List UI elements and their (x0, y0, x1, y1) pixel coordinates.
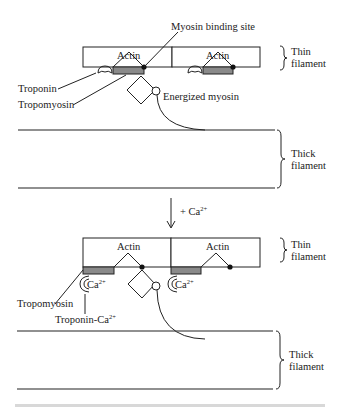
myosin-hinge-bottom (152, 282, 160, 290)
tropomyosin-right-bottom (171, 267, 201, 274)
thin-filament-label-1: Thin (291, 46, 312, 57)
myosin-head-bottom (128, 270, 155, 298)
myosin-neck-bottom (157, 290, 205, 339)
binding-site-dot-right (230, 64, 235, 69)
bottom-panel: Actin Actin Ca2+ Ca2+ Tropomyosin Tropon… (17, 238, 326, 389)
calcium-transition: + Ca2+ (167, 198, 207, 228)
actin-label-left-bottom: Actin (117, 241, 141, 252)
thin-filament-label-2: filament (291, 58, 326, 69)
actin-label-right-bottom: Actin (206, 241, 230, 252)
thick-filament-brace-top (277, 130, 285, 188)
binding-site-dot-right-bottom (227, 264, 232, 269)
energized-myosin-label: Energized myosin (163, 91, 240, 102)
myosin-head-top (127, 76, 155, 104)
thick-filament-label-2: filament (291, 160, 326, 171)
troponin-leader (58, 73, 96, 89)
myosin-hinge-top (152, 87, 160, 95)
thick-filament-label-2-bottom: filament (289, 361, 324, 372)
thin-filament-label-1-bottom: Thin (291, 239, 312, 250)
thick-filament-label-1: Thick (291, 148, 316, 159)
ca-label-left: Ca2+ (87, 278, 106, 290)
tropomyosin-left-bottom (83, 267, 114, 274)
troponin-label: Troponin (18, 83, 57, 94)
tropomyosin-label: Tropomyosin (18, 99, 75, 110)
myosin-binding-site-label: Myosin binding site (171, 21, 255, 32)
muscle-contraction-diagram: Actin Actin Myosin binding site Troponin… (0, 0, 343, 407)
top-panel: Actin Actin Myosin binding site Troponin… (18, 21, 326, 188)
ca-label-right: Ca2+ (175, 278, 194, 290)
thin-filament-brace-top (280, 46, 287, 70)
thin-filament-label-2-bottom: filament (291, 251, 326, 262)
tropomyosin-label-bottom: Tropomyosin (17, 298, 74, 309)
thick-filament-brace-bottom (276, 331, 284, 389)
thin-filament-brace-bottom (280, 238, 287, 262)
tropomyosin-left (113, 67, 144, 74)
tropomyosin-right (203, 67, 233, 74)
thick-filament-label-1-bottom: Thick (289, 349, 314, 360)
plus-calcium-label: + Ca2+ (180, 205, 207, 217)
binding-site-dot-left-bottom (139, 264, 144, 269)
troponin-ca-label: Troponin-Ca2+ (55, 313, 116, 325)
